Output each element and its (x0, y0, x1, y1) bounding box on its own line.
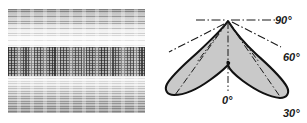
lower-striation-wash (8, 76, 145, 113)
figure-root: 90° 60° 30° 0° (0, 0, 307, 123)
wing-lobe-shape (166, 21, 288, 98)
upper-striation-wash (8, 9, 145, 47)
angle-label-60: 60° (283, 51, 300, 63)
striated-texture-panel (8, 9, 145, 113)
angle-label-30: 30° (283, 107, 300, 119)
angle-label-0: 0° (222, 94, 233, 106)
polar-diagram-svg: 90° 60° 30° 0° (153, 0, 307, 123)
angle-label-90: 90° (275, 14, 292, 26)
central-crosshatch-wash (8, 47, 145, 76)
wing-shaped-polar-diagram: 90° 60° 30° 0° (153, 0, 307, 123)
